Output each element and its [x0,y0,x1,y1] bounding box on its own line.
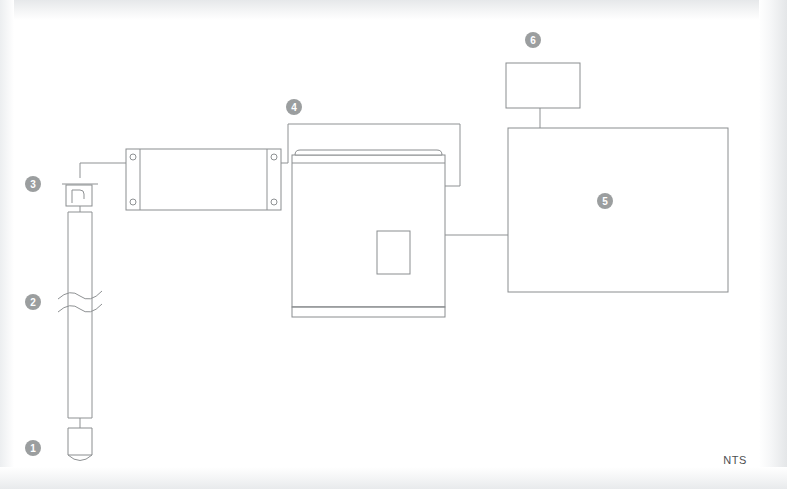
display-monitor [506,63,580,108]
callout-marker-3-label: 3 [30,179,36,190]
callout-marker-4[interactable]: 4 [286,99,302,115]
equipment-schematic: 1 2 3 4 5 6 NTS [0,0,787,489]
cabinet-inner-panel [377,231,410,274]
probe-tip [68,428,92,461]
probe-body [68,212,92,418]
field-cabinet [292,150,445,317]
callout-marker-5[interactable]: 5 [597,193,613,209]
callout-marker-6[interactable]: 6 [525,32,541,48]
callout-marker-6-label: 6 [530,35,536,46]
acquisition-unit-large [508,128,728,292]
callout-marker-1-label: 1 [30,443,36,454]
diagram-page: 1 2 3 4 5 6 NTS [0,0,787,489]
scale-note: NTS [723,454,747,466]
callout-marker-4-label: 4 [291,102,297,113]
callout-marker-3[interactable]: 3 [25,176,41,192]
probe-shaft-break [58,291,102,312]
cable-probe-to-junction [80,163,130,178]
interface-junction-box [126,149,281,210]
callout-marker-2-label: 2 [30,297,36,308]
callout-marker-5-label: 5 [602,196,608,207]
callout-marker-1[interactable]: 1 [25,440,41,456]
callout-marker-2[interactable]: 2 [25,294,41,310]
cable-head-fitting [62,184,98,212]
